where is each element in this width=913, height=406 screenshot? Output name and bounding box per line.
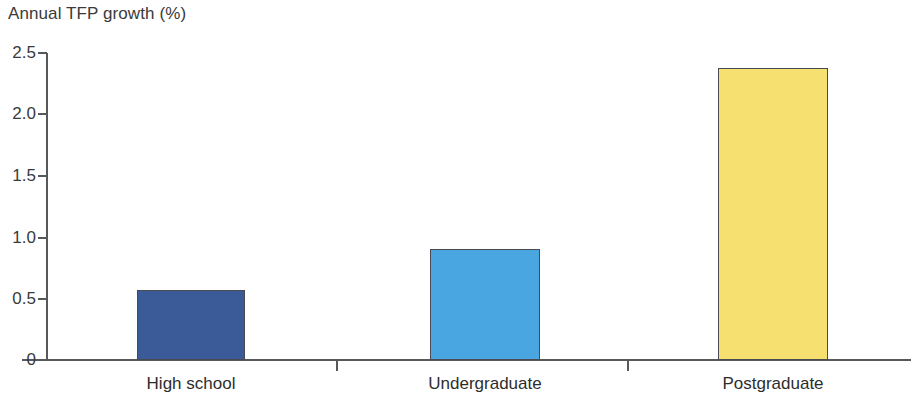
y-axis-tick-label: 2.5 (2, 43, 36, 63)
x-axis-tick (627, 361, 629, 371)
x-axis-category-label-postgraduate: Postgraduate (722, 374, 823, 394)
y-axis-tick-label: 1.0 (2, 228, 36, 248)
x-axis-category-label-high-school: High school (147, 374, 236, 394)
y-axis-tick (38, 237, 47, 239)
y-axis-tick-label: 0 (2, 350, 36, 370)
x-axis-tick (336, 361, 338, 371)
y-axis-tick-label: 1.5 (2, 166, 36, 186)
bar-postgraduate[interactable] (718, 68, 828, 360)
y-axis-line (46, 53, 48, 361)
bar-high-school[interactable] (137, 290, 245, 360)
chart-container: Annual TFP growth (%) 2.5 2.0 1.5 1.0 0.… (0, 0, 913, 406)
y-axis-tick-label: 2.0 (2, 104, 36, 124)
y-axis-tick (38, 113, 47, 115)
y-axis-tick (38, 298, 47, 300)
x-axis-category-label-undergraduate: Undergraduate (428, 374, 541, 394)
y-axis-tick (38, 175, 47, 177)
bar-undergraduate[interactable] (430, 249, 540, 360)
plot-area: 2.5 2.0 1.5 1.0 0.5 0 High school Under (0, 0, 913, 406)
y-axis-tick-label: 0.5 (2, 289, 36, 309)
y-axis-tick (38, 52, 47, 54)
